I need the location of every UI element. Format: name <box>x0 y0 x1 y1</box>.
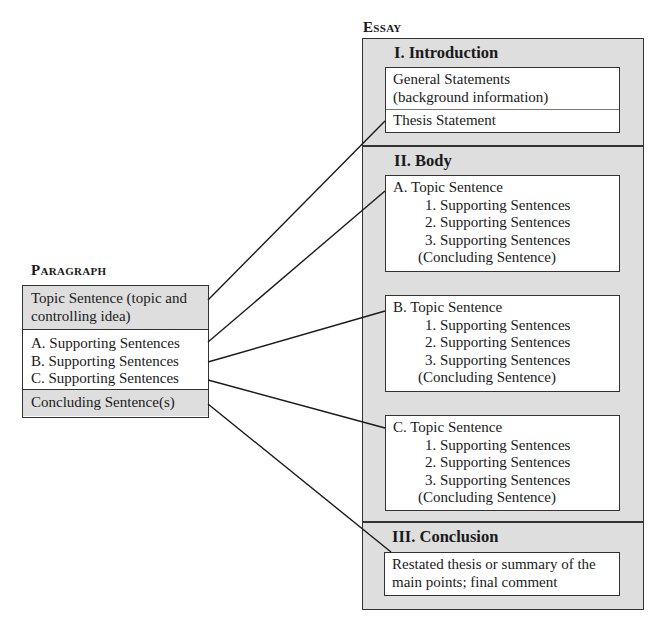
paragraph-support-c: C. Supporting Sentences <box>31 370 208 388</box>
body-conclusion-divider <box>362 521 644 523</box>
paragraph-label: Paragraph <box>31 262 106 279</box>
essay-label: Essay <box>363 19 402 36</box>
paragraph-support-section: A. Supporting Sentences B. Supporting Se… <box>23 330 208 390</box>
body-section-b: B. Topic Sentence 1. Supporting Sentence… <box>385 295 620 392</box>
connector-topic-to-thesis <box>208 121 385 300</box>
topic-sentence-c: C. Topic Sentence <box>393 419 619 437</box>
conclusion-text-line1: Restated thesis or summary of the <box>392 556 619 574</box>
supporting-sentence: 1. Supporting Sentences <box>393 197 619 215</box>
topic-sentence-b: B. Topic Sentence <box>393 299 619 317</box>
paragraph-panel: Topic Sentence (topic and controlling id… <box>22 285 209 418</box>
paragraph-concluding-section: Concluding Sentence(s) <box>23 390 208 416</box>
supporting-sentence: 2. Supporting Sentences <box>393 454 619 472</box>
introduction-box: General Statements (background informati… <box>385 67 620 133</box>
concluding-sentence: (Concluding Sentence) <box>393 489 619 507</box>
supporting-sentence: 2. Supporting Sentences <box>393 334 619 352</box>
connector-a-to-body-a <box>208 191 385 342</box>
supporting-sentence: 3. Supporting Sentences <box>393 232 619 250</box>
body-section-a: A. Topic Sentence 1. Supporting Sentence… <box>385 175 620 272</box>
conclusion-text-line2: main points; final comment <box>392 574 619 592</box>
supporting-sentence: 1. Supporting Sentences <box>393 437 619 455</box>
paragraph-topic-line1: Topic Sentence (topic and <box>31 290 208 308</box>
conclusion-heading: III. Conclusion <box>392 527 498 547</box>
body-section-c: C. Topic Sentence 1. Supporting Sentence… <box>385 415 620 511</box>
paragraph-support-a: A. Supporting Sentences <box>31 335 208 353</box>
paragraph-support-b: B. Supporting Sentences <box>31 353 208 371</box>
supporting-sentence: 2. Supporting Sentences <box>393 214 619 232</box>
supporting-sentence: 3. Supporting Sentences <box>393 472 619 490</box>
conclusion-box: Restated thesis or summary of the main p… <box>384 552 620 596</box>
background-info-text: (background information) <box>393 89 619 107</box>
general-statements-text: General Statements <box>393 71 619 89</box>
connector-b-to-body-b <box>208 311 385 362</box>
body-heading: II. Body <box>394 151 452 171</box>
paragraph-concluding-text: Concluding Sentence(s) <box>31 394 208 412</box>
concluding-sentence: (Concluding Sentence) <box>393 249 619 267</box>
topic-sentence-a: A. Topic Sentence <box>393 179 619 197</box>
paragraph-topic-line2: controlling idea) <box>31 308 208 326</box>
paragraph-topic-section: Topic Sentence (topic and controlling id… <box>23 286 208 330</box>
introduction-heading: I. Introduction <box>394 43 498 63</box>
concluding-sentence: (Concluding Sentence) <box>393 369 619 387</box>
supporting-sentence: 1. Supporting Sentences <box>393 317 619 335</box>
supporting-sentence: 3. Supporting Sentences <box>393 352 619 370</box>
connector-c-to-body-c <box>208 380 385 428</box>
thesis-statement-text: Thesis Statement <box>393 112 619 130</box>
intro-body-divider <box>362 145 644 147</box>
